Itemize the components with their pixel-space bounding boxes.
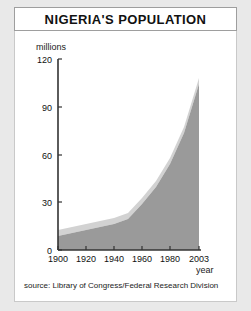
chart-figure: NIGERIA'S POPULATION millions 120 90 60 … [0,0,251,311]
area-series-population [58,84,199,250]
y-tick-label: 30 [42,198,52,208]
source-note: source: Library of Congress/Federal Rese… [24,281,218,290]
x-tick-label: 1940 [104,254,124,264]
x-tick-label: 1960 [132,254,152,264]
x-axis-label: year [196,265,214,275]
y-tick-label: 120 [37,55,52,65]
x-tick-label: 2003 [189,254,209,264]
x-tick-label: 1980 [160,254,180,264]
x-tick-label: 1900 [48,254,68,264]
y-tick-label: 90 [42,103,52,113]
x-tick-labels: 1900 1920 1940 1960 1980 2003 [48,254,209,264]
x-tick-label: 1920 [76,254,96,264]
y-tick-label: 60 [42,151,52,161]
y-tick-labels: 120 90 60 30 0 [37,55,52,256]
